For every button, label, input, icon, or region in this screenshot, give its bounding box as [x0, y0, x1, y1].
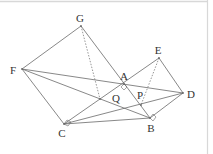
point-B	[149, 117, 151, 119]
point-F	[21, 68, 23, 70]
label-Q: Q	[112, 93, 120, 104]
point-E	[158, 57, 160, 59]
label-F: F	[10, 65, 16, 76]
label-B: B	[147, 123, 154, 134]
label-C: C	[58, 128, 65, 139]
segment-FG	[22, 26, 81, 69]
label-A: A	[120, 71, 128, 82]
segment-EP	[141, 58, 159, 105]
segment-BD	[150, 93, 183, 118]
label-G: G	[76, 13, 84, 24]
diagram-canvas	[0, 0, 213, 154]
geometry-diagram: FGAEDBCQP	[0, 0, 213, 154]
segment-CD	[64, 93, 183, 124]
label-E: E	[155, 45, 162, 56]
point-D	[182, 92, 184, 94]
point-A	[123, 83, 125, 85]
label-D: D	[187, 89, 195, 100]
vertex-dots	[21, 25, 184, 125]
segment-DE	[159, 58, 183, 93]
label-P: P	[137, 90, 143, 101]
segment-GQ	[81, 26, 100, 99]
segments	[22, 26, 183, 124]
point-C	[63, 123, 65, 125]
point-G	[80, 25, 82, 27]
point-Q	[99, 98, 101, 100]
segment-FD	[22, 69, 183, 93]
point-P	[140, 104, 142, 106]
